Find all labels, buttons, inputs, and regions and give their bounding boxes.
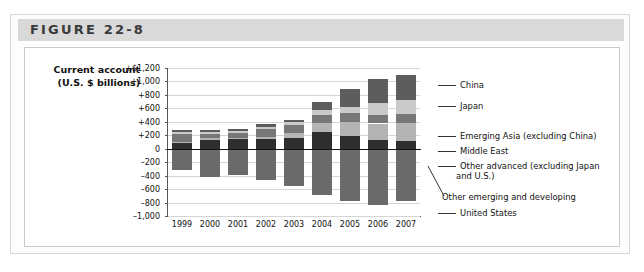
legend-leader-line xyxy=(438,136,456,137)
legend-leader-line xyxy=(438,151,456,152)
y-axis-tick-label: –200 xyxy=(104,158,160,167)
bar-segment[interactable] xyxy=(396,114,417,123)
bar-segment[interactable] xyxy=(256,149,277,180)
bar-segment[interactable] xyxy=(228,138,249,139)
bar-group[interactable] xyxy=(228,68,249,216)
bar-group[interactable] xyxy=(368,68,389,216)
zero-baseline xyxy=(167,149,421,150)
bar-segment[interactable] xyxy=(200,149,221,177)
legend-label: Other advanced (excluding Japan xyxy=(460,161,600,171)
bar-segment[interactable] xyxy=(172,132,193,134)
figure-container: FIGURE 22-8 Current account (U.S. $ bill… xyxy=(0,0,644,272)
x-axis-tick-label: 2002 xyxy=(256,220,276,229)
legend-label: Middle East xyxy=(460,146,508,156)
bar-segment[interactable] xyxy=(256,129,277,136)
bar-segment[interactable] xyxy=(396,123,417,141)
bar-segment[interactable] xyxy=(284,138,305,149)
bar-segment[interactable] xyxy=(396,141,417,149)
bar-segment[interactable] xyxy=(340,89,361,108)
bar-segment[interactable] xyxy=(256,124,277,126)
x-axis-tick-label: 2005 xyxy=(340,220,360,229)
bar-group[interactable] xyxy=(172,68,193,216)
bar-segment[interactable] xyxy=(172,130,193,132)
bar-segment[interactable] xyxy=(200,138,221,140)
gridline xyxy=(168,216,420,217)
legend-label: Emerging Asia (excluding China) xyxy=(460,131,596,141)
bar-segment[interactable] xyxy=(172,134,193,141)
y-axis-tick-label: +600 xyxy=(104,104,160,113)
bar-segment[interactable] xyxy=(200,130,221,132)
bar-segment[interactable] xyxy=(284,125,305,132)
y-axis-tickmark xyxy=(165,95,168,96)
legend-leader-line xyxy=(438,213,456,214)
bar-segment[interactable] xyxy=(396,100,417,114)
y-axis-tick-label: +1,000 xyxy=(104,77,160,86)
bar-segment[interactable] xyxy=(368,79,389,103)
bar-segment[interactable] xyxy=(284,120,305,122)
bar-segment[interactable] xyxy=(284,122,305,125)
x-axis-tick-label: 2006 xyxy=(368,220,388,229)
bar-segment[interactable] xyxy=(228,131,249,133)
bar-segment[interactable] xyxy=(200,134,221,138)
legend-leader-line xyxy=(438,106,456,107)
bar-group[interactable] xyxy=(340,68,361,216)
y-axis-tickmark xyxy=(165,189,168,190)
bar-segment[interactable] xyxy=(284,149,305,186)
bar-segment[interactable] xyxy=(340,113,361,122)
bar-segment[interactable] xyxy=(340,136,361,149)
bar-segment[interactable] xyxy=(228,133,249,138)
bar-segment[interactable] xyxy=(340,122,361,135)
x-axis-tick-label: 2004 xyxy=(312,220,332,229)
y-axis-tickmark xyxy=(165,216,168,217)
y-axis-tick-label: +400 xyxy=(104,117,160,126)
bar-segment[interactable] xyxy=(200,140,221,149)
bar-segment[interactable] xyxy=(228,139,249,148)
bar-group[interactable] xyxy=(312,68,333,216)
bar-group[interactable] xyxy=(200,68,221,216)
y-axis-tickmark xyxy=(165,122,168,123)
x-axis-tick-label: 2003 xyxy=(284,220,304,229)
bar-segment[interactable] xyxy=(312,149,333,195)
bar-segment[interactable] xyxy=(368,115,389,123)
bar-segment[interactable] xyxy=(312,123,333,132)
bar-segment[interactable] xyxy=(396,149,417,201)
chart-legend: ChinaJapanEmerging Asia (excluding China… xyxy=(430,68,635,218)
bar-segment[interactable] xyxy=(172,149,193,171)
y-axis-tick-labels: +$1,200+1,000+800+600+400+2000–200–400–6… xyxy=(104,68,164,216)
bar-segment[interactable] xyxy=(340,107,361,113)
figure-number-label: FIGURE 22-8 xyxy=(30,22,145,37)
y-axis-tickmark xyxy=(165,176,168,177)
y-axis-tick-label: –800 xyxy=(104,198,160,207)
bar-segment[interactable] xyxy=(368,103,389,115)
y-axis-tick-label: 0 xyxy=(104,144,160,153)
bar-group[interactable] xyxy=(396,68,417,216)
bar-segment[interactable] xyxy=(340,149,361,201)
y-axis-tickmark xyxy=(165,81,168,82)
x-axis-tick-label: 2000 xyxy=(200,220,220,229)
bar-group[interactable] xyxy=(284,68,305,216)
bar-segment[interactable] xyxy=(312,102,333,110)
bar-segment[interactable] xyxy=(368,124,389,140)
bar-segment[interactable] xyxy=(368,140,389,149)
y-axis-tick-label: –400 xyxy=(104,171,160,180)
bar-segment[interactable] xyxy=(172,142,193,144)
legend-label: Japan xyxy=(460,101,483,111)
bar-segment[interactable] xyxy=(312,110,333,115)
legend-label: China xyxy=(460,80,484,90)
bar-segment[interactable] xyxy=(396,75,417,100)
legend-leader-diagonal xyxy=(426,163,466,203)
bar-segment[interactable] xyxy=(284,133,305,138)
bar-segment[interactable] xyxy=(312,132,333,149)
bar-segment[interactable] xyxy=(256,139,277,148)
bar-group[interactable] xyxy=(256,68,277,216)
bar-segment[interactable] xyxy=(256,137,277,140)
x-axis-tick-label: 1999 xyxy=(172,220,192,229)
bar-segment[interactable] xyxy=(228,129,249,130)
bar-segment[interactable] xyxy=(200,132,221,134)
bar-segment[interactable] xyxy=(312,115,333,122)
legend-leader-line xyxy=(438,85,456,86)
bar-segment[interactable] xyxy=(228,149,249,175)
bar-segment[interactable] xyxy=(256,127,277,130)
bar-segment[interactable] xyxy=(368,149,389,205)
plot-area xyxy=(168,68,420,216)
